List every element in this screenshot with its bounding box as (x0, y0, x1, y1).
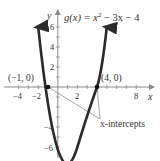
pointer-line-right (97, 87, 100, 119)
tick-label-x-8: 8 (134, 91, 138, 101)
graph-figure: y x g(x) = x2 − 3x − 4 −4 −2 2 8 6 4 2 −… (0, 0, 160, 161)
tick-label-y-2: 2 (50, 62, 54, 72)
graph-canvas: y x g(x) = x2 − 3x − 4 −4 −2 2 8 6 4 2 −… (0, 0, 160, 161)
point-right-intercept (95, 85, 100, 90)
tick-label-y--6: −6 (44, 143, 53, 153)
point-label-left: (−1, 0) (8, 73, 34, 84)
point-label-right: (4, 0) (101, 73, 122, 84)
tick-label-y-6: 6 (50, 22, 54, 32)
function-title: g(x) = x2 − 3x − 4 (64, 11, 140, 24)
x-axis-label: x (147, 91, 153, 102)
tick-label-y--4: −4 (44, 122, 54, 132)
parabola-curve (38, 27, 107, 161)
tick-label-x--4: −4 (13, 91, 23, 101)
tick-label-x-2: 2 (75, 91, 79, 101)
point-left-intercept (46, 85, 51, 90)
tick-label-y-4: 4 (50, 42, 55, 52)
annotation-x-intercepts: x-intercepts (100, 119, 145, 129)
tick-label-x--2: −2 (32, 91, 41, 101)
y-axis-label: y (46, 10, 52, 21)
